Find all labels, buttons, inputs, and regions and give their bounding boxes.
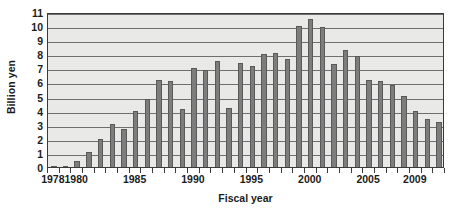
bar	[203, 70, 208, 167]
bar	[296, 26, 301, 167]
bar	[121, 129, 126, 167]
bar	[215, 61, 220, 167]
bar-chart-figure: Billion yen 01234567891011 1978198019851…	[0, 0, 459, 222]
bar	[98, 139, 103, 167]
bar	[180, 109, 185, 167]
bar	[436, 122, 441, 167]
bar	[261, 54, 266, 167]
bar	[273, 53, 278, 167]
bar	[133, 111, 138, 167]
y-tick-label: 0	[37, 163, 43, 174]
x-tick-label: 1985	[123, 173, 146, 186]
bar	[320, 27, 325, 167]
bar	[401, 96, 406, 167]
x-tick-label: 1980	[65, 173, 88, 186]
y-tick-label: 11	[32, 8, 43, 19]
bar	[366, 80, 371, 167]
bar	[51, 166, 56, 167]
x-tick-label: 1990	[181, 173, 204, 186]
bars-layer	[48, 14, 443, 167]
bar	[250, 66, 255, 167]
bar	[226, 108, 231, 167]
y-tick-label: 2	[37, 135, 43, 146]
bar	[425, 119, 430, 167]
y-tick-label: 9	[37, 36, 43, 47]
x-tick	[444, 168, 445, 173]
bar	[390, 85, 395, 167]
bar	[110, 124, 115, 167]
y-tick-label: 10	[31, 22, 43, 33]
y-tick-label: 5	[37, 92, 43, 103]
x-tick-label: 2000	[298, 173, 321, 186]
bar	[413, 111, 418, 167]
bar	[191, 68, 196, 167]
bar	[331, 64, 336, 167]
y-axis-title: Billion yen	[2, 12, 20, 162]
y-axis-tick-labels: 01234567891011	[20, 12, 46, 168]
bar	[238, 63, 243, 167]
y-tick-label: 6	[37, 78, 43, 89]
x-axis-tick-labels: 19781980198519901995200020052009	[47, 173, 444, 189]
bar	[378, 81, 383, 167]
y-tick-label: 7	[37, 64, 43, 75]
x-tick-label: 1978	[41, 173, 64, 186]
y-tick-label: 4	[37, 106, 43, 117]
bar	[63, 166, 68, 167]
x-tick-label: 2009	[403, 173, 426, 186]
bar	[74, 161, 79, 167]
x-axis-title: Fiscal year	[47, 192, 444, 204]
y-tick-label: 1	[37, 149, 43, 160]
bar	[145, 99, 150, 167]
x-tick-label: 2005	[356, 173, 379, 186]
bar	[355, 56, 360, 167]
bar	[285, 59, 290, 168]
y-tick-label: 8	[37, 50, 43, 61]
bar	[343, 50, 348, 167]
bar	[86, 152, 91, 167]
bar	[168, 81, 173, 167]
bar	[156, 80, 161, 167]
bar	[308, 19, 313, 167]
x-tick-label: 1995	[240, 173, 263, 186]
y-axis-title-label: Billion yen	[5, 60, 17, 114]
plot-area	[47, 13, 444, 168]
y-tick-label: 3	[37, 120, 43, 131]
